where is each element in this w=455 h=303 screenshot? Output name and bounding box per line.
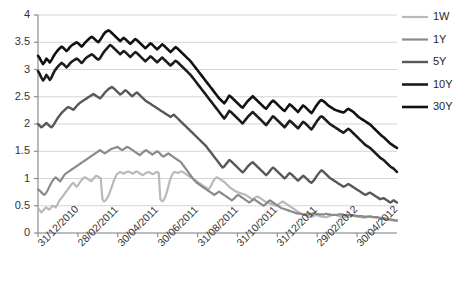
y-axis-tick-label: 3 [0, 64, 30, 75]
chart-plot-area [0, 0, 455, 303]
series-line-30Y [38, 30, 397, 148]
legend-label-1Y: 1Y [433, 34, 446, 45]
series-line-10Y [38, 45, 397, 172]
legend-label-10Y: 10Y [433, 79, 453, 90]
y-axis-tick-label: 1 [0, 173, 30, 184]
y-axis-tick-label: 4 [0, 9, 30, 20]
legend-label-30Y: 30Y [433, 101, 453, 112]
yield-curve-line-chart: 00.511.522.533.54 31/12/201028/02/201130… [0, 0, 455, 303]
series-line-5Y [38, 87, 397, 203]
y-axis-tick-label: 2 [0, 118, 30, 129]
legend-swatch-group [402, 17, 428, 107]
legend-label-1W: 1W [433, 11, 450, 22]
y-axis-tick-label: 0.5 [0, 200, 30, 211]
y-axis-tick-label: 3.5 [0, 36, 30, 47]
y-axis-tick-label: 1.5 [0, 145, 30, 156]
y-axis-tick-label: 2.5 [0, 91, 30, 102]
y-axis-tick-label: 0 [0, 227, 30, 238]
legend-label-5Y: 5Y [433, 56, 446, 67]
y-gridlines [38, 15, 397, 233]
data-series-group [38, 30, 397, 221]
